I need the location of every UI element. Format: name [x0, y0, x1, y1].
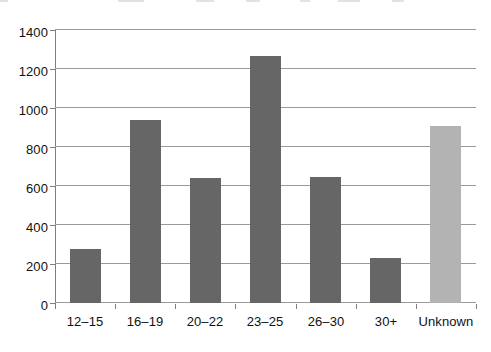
y-tick-label: 400 [0, 218, 48, 236]
y-tick-label-text: 800 [26, 142, 48, 157]
x-tick-4 [296, 304, 297, 309]
y-tick-label-text: 0 [41, 298, 48, 313]
y-tick-label: 1000 [0, 101, 48, 119]
x-tick-3 [235, 304, 236, 309]
y-tick-label-text: 1000 [19, 103, 48, 118]
x-axis-label-20-22: 20–22 [175, 314, 235, 329]
y-tick-label-text: 1200 [19, 64, 48, 79]
bar-16-19 [130, 120, 161, 303]
x-axis-label-30+: 30+ [356, 314, 416, 329]
bar-chart: 0200400600800100012001400 12–1516–1920–2… [0, 0, 491, 352]
gridline-1400 [55, 29, 476, 30]
plot-area [55, 30, 476, 303]
y-tick-label-text: 1400 [19, 25, 48, 40]
y-tick-label: 200 [0, 257, 48, 275]
x-tick-6 [416, 304, 417, 309]
x-tick-5 [356, 304, 357, 309]
x-tick-2 [175, 304, 176, 309]
y-tick-label-text: 200 [26, 259, 48, 274]
x-axis-labels: 12–1516–1920–2223–2526–3030+Unknown [55, 314, 476, 334]
x-axis-label-12-15: 12–15 [55, 314, 115, 329]
bar-unknown [430, 126, 461, 303]
y-tick-label: 1400 [0, 23, 48, 41]
x-axis-label-unknown: Unknown [416, 314, 476, 329]
y-tick-label: 0 [0, 296, 48, 314]
y-tick-label: 800 [0, 140, 48, 158]
x-tick-1 [115, 304, 116, 309]
x-axis-label-26-30: 26–30 [296, 314, 356, 329]
y-tick-label: 600 [0, 179, 48, 197]
y-tick-label: 1200 [0, 62, 48, 80]
x-axis-label-23-25: 23–25 [235, 314, 295, 329]
y-tick-label-text: 600 [26, 181, 48, 196]
scan-artifact [0, 0, 491, 3]
y-tick-label-text: 400 [26, 220, 48, 235]
bar-20-22 [190, 178, 221, 303]
bar-23-25 [250, 56, 281, 303]
bar-26-30 [310, 177, 341, 303]
x-axis-ticks [55, 304, 477, 310]
x-tick-0 [55, 304, 56, 309]
x-tick-7 [476, 304, 477, 309]
bar-12-15 [70, 249, 101, 303]
x-axis-label-16-19: 16–19 [115, 314, 175, 329]
bar-30+ [370, 258, 401, 303]
